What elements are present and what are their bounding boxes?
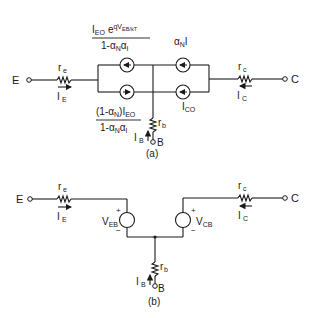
- emitter-current-b: I E: [57, 207, 71, 223]
- collector-terminal: C: [283, 73, 299, 85]
- collector-resistor-b: r c: [238, 180, 252, 201]
- svg-text:E: E: [62, 96, 67, 103]
- svg-text:E: E: [12, 74, 19, 86]
- base-terminal-b: B: [153, 283, 165, 294]
- svg-text:I: I: [57, 211, 60, 222]
- svg-text:I: I: [57, 91, 60, 102]
- label-top-right-source: αNI: [174, 36, 188, 48]
- svg-text:r: r: [238, 180, 242, 191]
- emitter-terminal: E: [12, 74, 31, 86]
- svg-text:+: +: [191, 206, 196, 215]
- current-source-bottom-right: [176, 85, 190, 99]
- svg-text:−: −: [191, 226, 196, 235]
- svg-text:r: r: [58, 181, 62, 192]
- svg-text:e: e: [63, 67, 67, 74]
- base-current-b: I B: [136, 275, 150, 288]
- collector-resistor: r c: [238, 61, 252, 82]
- svg-text:E: E: [62, 216, 67, 223]
- svg-text:e: e: [63, 186, 67, 193]
- svg-text:c: c: [243, 185, 247, 192]
- base-current: I B: [134, 131, 148, 144]
- svg-text:B: B: [158, 283, 165, 294]
- caption-a: (a): [146, 148, 158, 159]
- svg-text:ICO: ICO: [182, 101, 196, 113]
- panel-b: E r e I E VEB + − VCB +: [16, 180, 299, 307]
- emitter-terminal-b: E: [16, 193, 32, 205]
- svg-text:C: C: [242, 95, 247, 102]
- current-source-bottom-left: [120, 85, 134, 99]
- svg-text:VCB: VCB: [196, 216, 213, 228]
- base-resistor-b: r b: [152, 261, 168, 284]
- panel-a: E r e I E: [12, 23, 299, 159]
- svg-text:+: +: [116, 206, 121, 215]
- transistor-equivalent-circuit-diagram: E r e I E: [0, 0, 315, 318]
- caption-b: (b): [148, 296, 160, 307]
- svg-text:c: c: [243, 66, 247, 73]
- svg-text:1-αNαI: 1-αNαI: [101, 40, 129, 52]
- current-source-top-right: [176, 58, 190, 72]
- svg-text:−: −: [116, 226, 121, 235]
- svg-text:r: r: [58, 62, 62, 73]
- collector-terminal-b: C: [283, 192, 299, 204]
- label-bottom-right-source: ICO: [182, 101, 196, 113]
- svg-text:E: E: [16, 193, 23, 205]
- emitter-current: I E: [57, 87, 71, 103]
- svg-text:I: I: [238, 210, 241, 221]
- svg-text:B: B: [141, 281, 146, 288]
- svg-text:IEOeqVEB/kT: IEOeqVEB/kT: [92, 23, 138, 36]
- svg-text:I: I: [134, 132, 137, 143]
- svg-text:b: b: [162, 122, 166, 129]
- label-top-left-source: IEOeqVEB/kT 1-αNαI: [92, 23, 150, 52]
- svg-text:b: b: [164, 266, 168, 273]
- emitter-resistor: r e: [57, 62, 71, 83]
- voltage-source-veb: VEB + −: [102, 206, 135, 235]
- svg-text:B: B: [157, 137, 164, 148]
- svg-text:(1-αN)IEO: (1-αN)IEO: [96, 106, 136, 118]
- collector-current-b: I C: [238, 206, 252, 222]
- svg-text:C: C: [243, 215, 248, 222]
- collector-current: I C: [237, 86, 252, 102]
- svg-text:αNI: αNI: [174, 36, 188, 48]
- emitter-resistor-b: r e: [57, 181, 71, 202]
- voltage-source-vcb: VCB + −: [176, 206, 213, 235]
- svg-text:r: r: [238, 61, 242, 72]
- svg-text:I: I: [136, 276, 139, 287]
- svg-text:1-αNαI: 1-αNαI: [100, 122, 128, 134]
- current-source-top-left: [120, 58, 134, 72]
- svg-text:B: B: [139, 137, 144, 144]
- svg-text:C: C: [291, 192, 299, 204]
- svg-text:I: I: [237, 90, 240, 101]
- label-bottom-left-source: (1-αN)IEO 1-αNαI: [96, 106, 141, 134]
- svg-text:C: C: [291, 73, 299, 85]
